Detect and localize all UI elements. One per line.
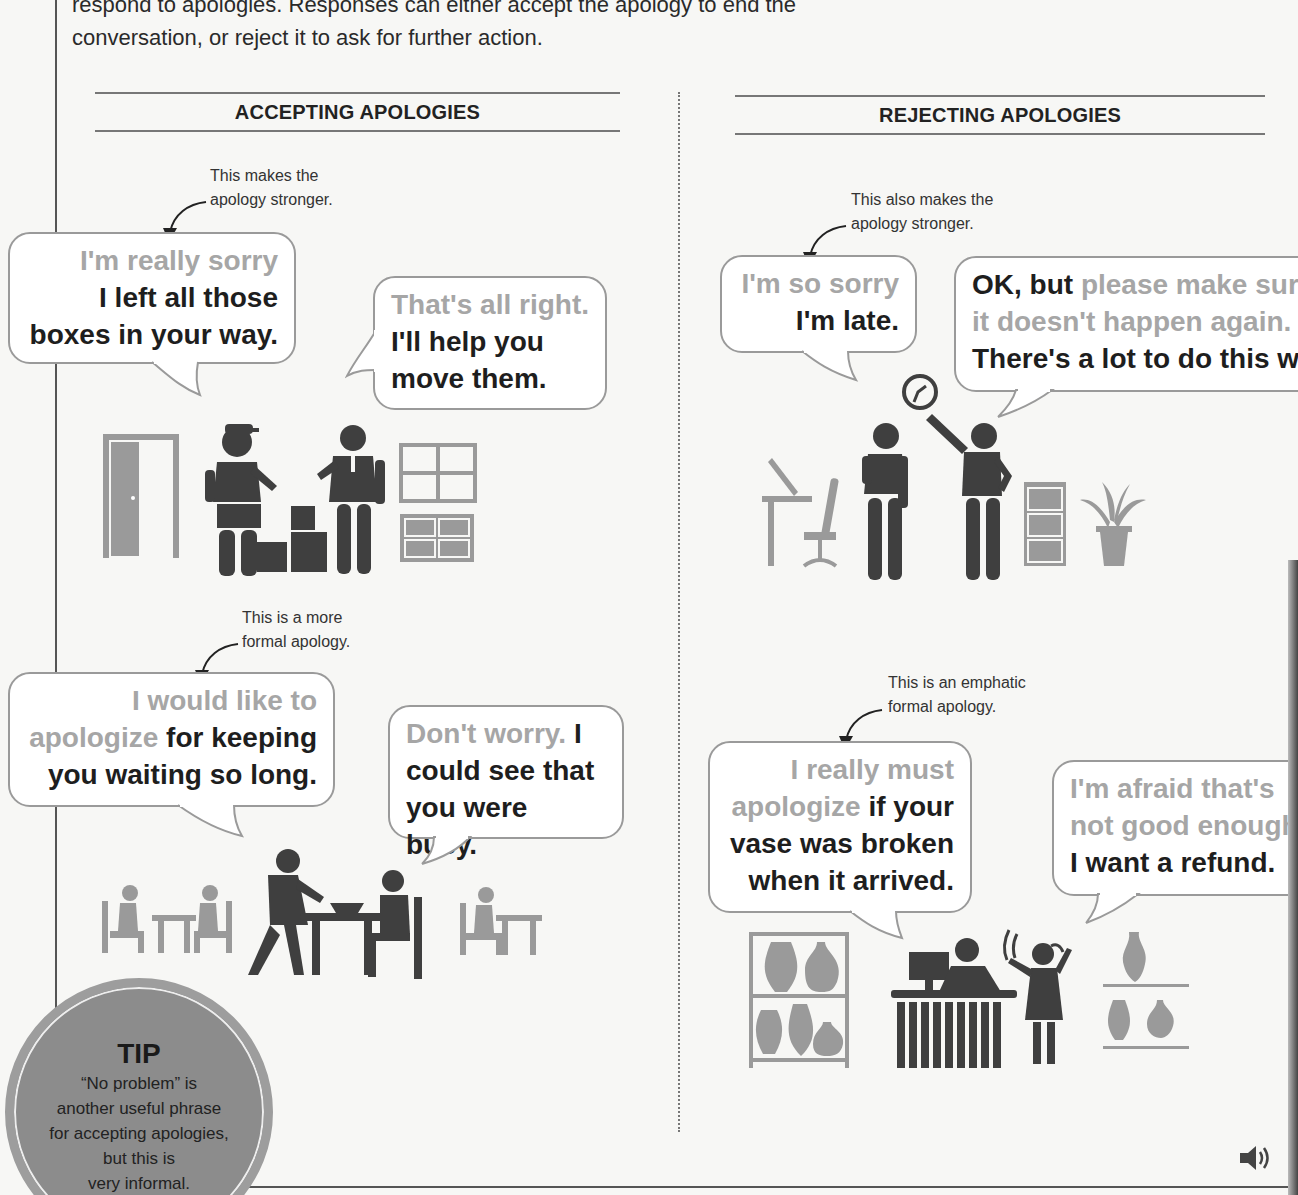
response-text: move them. [391, 360, 589, 397]
speech-bubble-apology: I really must apologize if your vase was… [708, 741, 972, 913]
intro-line-1: respond to apologies. Responses can eith… [72, 0, 872, 21]
tip-line: but this is [14, 1146, 264, 1171]
response-text: I'll help you [391, 323, 589, 360]
boxes-icon [257, 506, 327, 572]
waiter-and-diner [248, 849, 422, 979]
response-text: could see that [406, 752, 606, 789]
manager-figure [926, 414, 1012, 580]
response-phrase: I'm afraid that's [1070, 770, 1298, 807]
vase-display-icon [1103, 932, 1189, 1049]
note-reject-2: This is an emphatic formal apology. [888, 671, 1026, 719]
note-accept-2: This is a more formal apology. [242, 606, 350, 654]
intro-line-2: conversation, or reject it to ask for fu… [72, 21, 872, 54]
tip-line: another useful phrase [14, 1096, 264, 1121]
response-text: I want a refund. [1070, 844, 1298, 881]
response-phrase: Don't worry. [406, 718, 566, 749]
potted-plant-icon [1080, 482, 1146, 566]
accepting-heading: ACCEPTING APOLOGIES [95, 92, 620, 132]
response-text: I [566, 718, 582, 749]
door-icon [103, 434, 179, 558]
note-line: This makes the [210, 164, 333, 188]
apology-text: you waiting so long. [26, 756, 317, 793]
note-line: This is an emphatic [888, 671, 1026, 695]
response-phrase: That's all right. [391, 286, 589, 323]
apology-phrase: apologize [732, 791, 861, 822]
note-line: apology stronger. [210, 188, 333, 212]
response-text: OK, but [972, 269, 1081, 300]
tip-body: “No problem” is another useful phrase fo… [14, 1071, 264, 1195]
apology-text: I'm late. [738, 302, 899, 339]
note-line: This is a more [242, 606, 350, 630]
note-line: apology stronger. [851, 212, 993, 236]
apology-text: boxes in your way. [26, 316, 278, 353]
rejecting-heading: REJECTING APOLOGIES [735, 95, 1265, 135]
scene-late-employee [758, 372, 1158, 584]
apology-text: for keeping [158, 722, 317, 753]
accepting-heading-label: ACCEPTING APOLOGIES [235, 101, 480, 124]
note-line: This also makes the [851, 188, 993, 212]
speech-bubble-response: I'm afraid that's not good enough I want… [1052, 760, 1298, 896]
column-divider [678, 92, 680, 1132]
clock-icon [904, 376, 936, 408]
desk-and-chair-icon [762, 458, 839, 566]
speaker-icon[interactable] [1238, 1142, 1274, 1174]
tip-title: TIP [14, 1039, 264, 1069]
intro-text: respond to apologies. Responses can eith… [72, 0, 872, 54]
cashier-counter [891, 938, 1017, 1068]
window-icon [401, 445, 475, 501]
scene-delivery-boxes [95, 418, 485, 578]
office-worker-figure [317, 425, 385, 574]
tip-line: “No problem” is [14, 1071, 264, 1096]
apology-text: vase was broken [726, 825, 954, 862]
apology-text: if your [861, 791, 954, 822]
apology-text: when it arrived. [726, 862, 954, 899]
apology-phrase: I'm so sorry [738, 265, 899, 302]
bubble-tail [345, 330, 377, 380]
apology-phrase: I really must [726, 751, 954, 788]
scene-shop-counter [745, 918, 1190, 1073]
note-line: formal apology. [242, 630, 350, 654]
speech-bubble-apology: I'm really sorry I left all those boxes … [8, 232, 296, 364]
bubble-tail [150, 361, 210, 397]
apology-phrase: I would like to [26, 682, 317, 719]
apology-phrase: apologize [29, 722, 158, 753]
filing-cabinet-icon [1024, 482, 1066, 566]
speech-bubble-response: That's all right. I'll help you move the… [373, 276, 607, 410]
speech-bubble-response: Don't worry. I could see that you were b… [388, 705, 624, 839]
speech-bubble-apology: I'm so sorry I'm late. [720, 255, 917, 353]
tip-line: very informal. [14, 1171, 264, 1195]
bubble-tail [176, 804, 246, 838]
response-phrase: not good enough [1070, 807, 1298, 844]
tip-line: for accepting apologies, [14, 1121, 264, 1146]
response-phrase: it doesn't happen again. [972, 303, 1298, 340]
speech-bubble-apology: I would like to apologize for keeping yo… [8, 672, 335, 807]
vase-shelf-icon [749, 932, 849, 1068]
note-line: formal apology. [888, 695, 1026, 719]
page-edge-shadow [1288, 560, 1298, 1195]
note-reject-1: This also makes the apology stronger. [851, 188, 993, 236]
rejecting-heading-label: REJECTING APOLOGIES [879, 104, 1121, 127]
note-accept-1: This makes the apology stronger. [210, 164, 333, 212]
response-phrase: please make sur [1081, 269, 1298, 300]
apology-text: I left all those [26, 279, 278, 316]
drawer-cabinet-icon [400, 514, 474, 562]
scene-restaurant [98, 845, 548, 980]
late-employee-figure [862, 423, 908, 580]
apology-phrase: I'm really sorry [26, 242, 278, 279]
